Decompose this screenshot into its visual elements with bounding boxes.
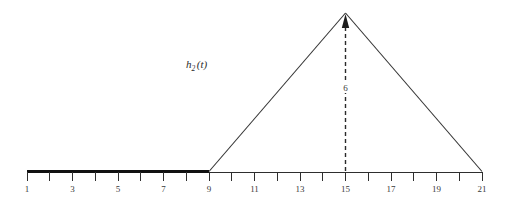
tick-label-11: 11: [250, 184, 259, 194]
triangle-falling-edge: [346, 13, 483, 172]
tick-label-5: 5: [116, 184, 121, 194]
axis-tick-labels: 1 3 5 7 9 11 13 15 17 19 21: [25, 184, 487, 194]
tick-label-1: 1: [25, 184, 30, 194]
plot-canvas: 1 3 5 7 9 11 13 15 17 19 21 6 h2(t): [0, 0, 508, 213]
tick-label-9: 9: [207, 184, 212, 194]
tick-label-3: 3: [70, 184, 75, 194]
curve-label-subscript: 2: [192, 64, 196, 73]
curve-label-argument: (t): [197, 58, 208, 71]
tick-label-15: 15: [341, 184, 351, 194]
tick-label-17: 17: [387, 184, 397, 194]
tick-label-7: 7: [161, 184, 166, 194]
tick-label-19: 19: [432, 184, 442, 194]
amplitude-label: 6: [343, 83, 348, 93]
tick-label-13: 13: [296, 184, 306, 194]
curve-label-h2t: h2(t): [186, 58, 207, 73]
triangle-rising-edge: [209, 13, 346, 172]
impulse-response-figure: 1 3 5 7 9 11 13 15 17 19 21 6 h2(t): [0, 0, 508, 213]
axis-ticks: [27, 172, 482, 181]
tick-label-21: 21: [478, 184, 487, 194]
